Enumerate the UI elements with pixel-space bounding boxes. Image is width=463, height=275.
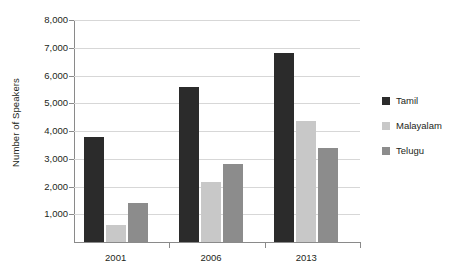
bar-tamil-2001 <box>84 137 104 242</box>
plot-area <box>74 20 360 242</box>
y-axis-title-label: Number of Speakers <box>10 78 21 167</box>
bar-group-2013 <box>265 20 360 242</box>
y-axis-tick-mark <box>69 48 74 49</box>
y-axis-tick-label: 7,000 <box>26 43 68 53</box>
x-axis-tick-mark <box>169 243 170 248</box>
bar-malayalam-2001 <box>106 225 126 242</box>
legend-swatch-icon <box>382 147 390 155</box>
x-axis-tick-label-2001: 2001 <box>86 252 146 263</box>
bar-chart: Number of Speakers 8,0007,0006,0005,0004… <box>0 0 463 275</box>
legend-label: Tamil <box>396 95 418 106</box>
y-axis-tick-mark <box>69 20 74 21</box>
x-axis-tick-label-2013: 2013 <box>276 252 336 263</box>
bar-telugu-2001 <box>128 203 148 242</box>
bar-tamil-2013 <box>274 53 294 242</box>
bar-malayalam-2006 <box>201 182 221 242</box>
y-axis-tick-label: 2,000 <box>26 182 68 192</box>
y-axis-tick-mark <box>69 76 74 77</box>
legend-label: Telugu <box>396 145 424 156</box>
legend-swatch-icon <box>382 122 390 130</box>
x-axis-tick-label-2006: 2006 <box>181 252 241 263</box>
legend-swatch-icon <box>382 97 390 105</box>
legend-label: Malayalam <box>396 120 442 131</box>
bar-tamil-2006 <box>179 87 199 242</box>
y-axis-tick-labels: 8,0007,0006,0005,0004,0003,0002,0001,000 <box>20 0 68 275</box>
y-axis-tick-label: 8,000 <box>26 15 68 25</box>
legend-item-tamil[interactable]: Tamil <box>382 88 460 113</box>
y-axis-tick-label: 3,000 <box>26 154 68 164</box>
y-axis-tick-mark <box>69 187 74 188</box>
bar-telugu-2006 <box>223 164 243 242</box>
x-axis-tick-mark <box>265 243 266 248</box>
bar-group-2006 <box>169 20 264 242</box>
bar-malayalam-2013 <box>296 121 316 242</box>
legend-item-telugu[interactable]: Telugu <box>382 138 460 163</box>
legend-item-malayalam[interactable]: Malayalam <box>382 113 460 138</box>
y-axis-tick-mark <box>69 131 74 132</box>
y-axis-tick-label: 1,000 <box>26 209 68 219</box>
y-axis-tick-mark <box>69 214 74 215</box>
x-axis-tick-mark <box>360 243 361 248</box>
y-axis-tick-label: 5,000 <box>26 98 68 108</box>
y-axis-tick-mark <box>69 159 74 160</box>
bar-telugu-2013 <box>318 148 338 242</box>
y-axis-tick-mark <box>69 103 74 104</box>
x-axis-line <box>74 242 361 243</box>
y-axis-tick-label: 6,000 <box>26 71 68 81</box>
y-axis-tick-label: 4,000 <box>26 126 68 136</box>
chart-legend: TamilMalayalamTelugu <box>382 88 460 163</box>
bar-group-2001 <box>74 20 169 242</box>
